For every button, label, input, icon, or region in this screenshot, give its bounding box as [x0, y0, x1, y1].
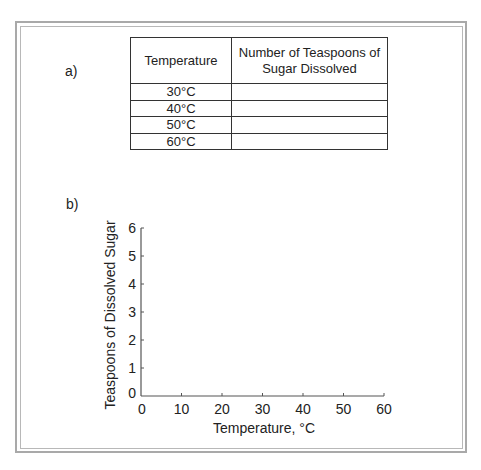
x-tick-label: 30: [255, 401, 271, 417]
x-tick-label: 40: [295, 401, 311, 417]
y-axis-label: Teaspoons of Dissolved Sugar: [102, 220, 118, 409]
x-axis-label: Temperature, °C: [213, 420, 315, 436]
y-tick-label: 6: [122, 220, 136, 236]
x-tick-label: 0: [138, 401, 146, 417]
chart: 6 5 4 3 2 1 0 0 10 20 30 40 50 60 Teaspo…: [0, 0, 481, 470]
y-tick-label: 0: [122, 385, 136, 401]
y-tick-label: 4: [122, 276, 136, 292]
x-tick-label: 60: [376, 401, 392, 417]
y-tick-label: 2: [122, 332, 136, 348]
x-tick-label: 20: [214, 401, 230, 417]
y-tick-label: 5: [122, 248, 136, 264]
chart-axes: [0, 0, 481, 470]
y-tick-label: 1: [122, 360, 136, 376]
x-tick-label: 10: [174, 401, 190, 417]
y-tick-label: 3: [122, 304, 136, 320]
x-tick-label: 50: [336, 401, 352, 417]
